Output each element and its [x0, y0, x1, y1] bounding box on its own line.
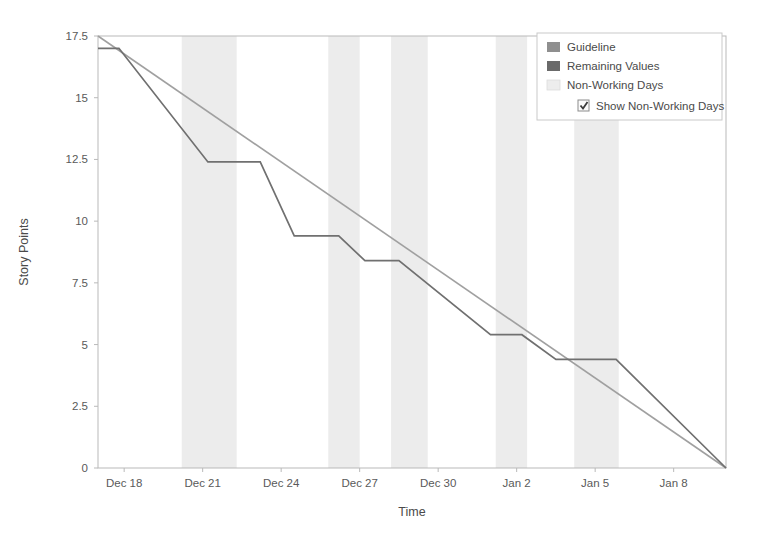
chart-canvas: 02.557.51012.51517.5 Dec 18Dec 21Dec 24D…	[0, 0, 759, 544]
y-tick-label: 5	[82, 339, 88, 351]
x-tick-label: Jan 2	[503, 477, 531, 489]
y-tick-label: 0	[82, 462, 88, 474]
y-axis-tick-labels: 02.557.51012.51517.5	[66, 30, 88, 474]
y-tick-label: 7.5	[72, 277, 88, 289]
burndown-chart: 02.557.51012.51517.5 Dec 18Dec 21Dec 24D…	[0, 0, 759, 544]
legend-swatch-non-working-days	[547, 80, 560, 90]
legend-label-non-working-days: Non-Working Days	[567, 79, 664, 91]
non-working-day-band	[391, 36, 428, 468]
y-axis-ticks	[94, 36, 98, 468]
y-axis-title: Story Points	[17, 218, 31, 285]
legend-label-remaining-values: Remaining Values	[567, 60, 660, 72]
x-tick-label: Dec 27	[341, 477, 377, 489]
x-tick-label: Dec 24	[263, 477, 300, 489]
y-tick-label: 2.5	[72, 400, 88, 412]
x-tick-label: Dec 30	[420, 477, 456, 489]
x-tick-label: Jan 5	[581, 477, 609, 489]
x-axis-tick-labels: Dec 18Dec 21Dec 24Dec 27Dec 30Jan 2Jan 5…	[106, 477, 688, 489]
non-working-day-band	[182, 36, 237, 468]
y-tick-label: 15	[75, 92, 88, 104]
y-tick-label: 17.5	[66, 30, 88, 42]
x-axis-title: Time	[398, 505, 425, 519]
x-axis-ticks	[124, 468, 674, 472]
legend-swatch-remaining-values	[547, 61, 560, 71]
y-tick-label: 10	[75, 215, 88, 227]
y-tick-label: 12.5	[66, 153, 88, 165]
x-tick-label: Dec 21	[184, 477, 220, 489]
non-working-day-band	[496, 36, 527, 468]
x-tick-label: Dec 18	[106, 477, 142, 489]
checkbox-label-show-non-working-days: Show Non-Working Days	[596, 100, 725, 112]
legend: Guideline Remaining Values Non-Working D…	[537, 33, 725, 120]
legend-swatch-guideline	[547, 42, 560, 52]
show-non-working-days-checkbox[interactable]	[578, 100, 589, 111]
x-tick-label: Jan 8	[660, 477, 688, 489]
legend-label-guideline: Guideline	[567, 41, 616, 53]
